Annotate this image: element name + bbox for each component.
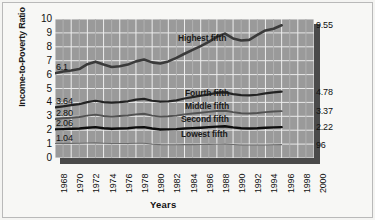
series-label-fourth-fifth: Fourth fifth: [185, 88, 229, 98]
x-axis-tick-1976: 1976: [124, 174, 134, 193]
x-axis-tick-1972: 1972: [91, 174, 101, 193]
y-axis-tick-0: 0: [34, 153, 52, 163]
end-value-label-2: 3.37: [316, 106, 333, 116]
end-value-label-1: 4.78: [316, 87, 333, 97]
end-value-label-0: 9.55: [316, 20, 333, 30]
x-axis-tick-1978: 1978: [140, 174, 150, 193]
start-value-label-1: 3.64: [56, 96, 73, 106]
end-value-label-3: 2.22: [316, 122, 333, 132]
y-axis-tick-5: 5: [34, 84, 52, 94]
x-axis-tick-1980: 1980: [156, 174, 166, 193]
x-axis-tick-1992: 1992: [253, 174, 263, 193]
series-label-lowest-fifth: Lowest fifth: [181, 129, 228, 139]
y-axis-tick-10: 10: [34, 14, 52, 24]
x-axis-tick-1968: 1968: [59, 174, 69, 193]
y-axis-tick-labels: 109876543210: [34, 14, 52, 158]
series-label-highest-fifth: Highest fifth: [178, 33, 226, 43]
start-value-label-2: 2.80: [56, 108, 73, 118]
y-axis-tick-7: 7: [34, 56, 52, 66]
x-axis-tick-labels: 1968197019721974197619781980198219841986…: [55, 163, 345, 199]
x-axis-tick-1994: 1994: [269, 174, 279, 193]
series-label-second-fifth: Second fifth: [181, 114, 229, 124]
y-axis-tick-4: 4: [34, 97, 52, 107]
x-axis-tick-1990: 1990: [237, 174, 247, 193]
chart-figure: Income-to-Poverty Ratio 109876543210 6.1…: [0, 0, 375, 220]
x-axis-tick-2000: 2000: [318, 174, 328, 193]
y-axis-title: Income-to-Poverty Ratio: [17, 0, 27, 127]
x-axis-tick-1982: 1982: [172, 174, 182, 193]
y-axis-tick-6: 6: [34, 70, 52, 80]
x-axis-tick-1970: 1970: [75, 174, 85, 193]
x-axis-tick-1998: 1998: [302, 174, 312, 193]
end-value-label-4: 96: [316, 140, 326, 150]
x-axis-tick-1974: 1974: [108, 174, 118, 193]
y-axis-tick-2: 2: [34, 125, 52, 135]
x-axis-tick-1986: 1986: [205, 174, 215, 193]
x-axis-tick-1996: 1996: [286, 174, 296, 193]
start-value-label-0: 6.1: [56, 62, 68, 72]
x-axis-tick-1988: 1988: [221, 174, 231, 193]
start-value-label-3: 2.06: [56, 118, 73, 128]
x-axis-title: Years: [150, 199, 176, 210]
series-label-middle-fifth: Middle fifth: [185, 101, 229, 111]
y-axis-tick-9: 9: [34, 28, 52, 38]
start-value-label-4: 1.04: [56, 133, 73, 143]
x-axis-tick-1984: 1984: [189, 174, 199, 193]
y-axis-tick-8: 8: [34, 42, 52, 52]
y-axis-tick-1: 1: [34, 139, 52, 149]
y-axis-tick-3: 3: [34, 111, 52, 121]
